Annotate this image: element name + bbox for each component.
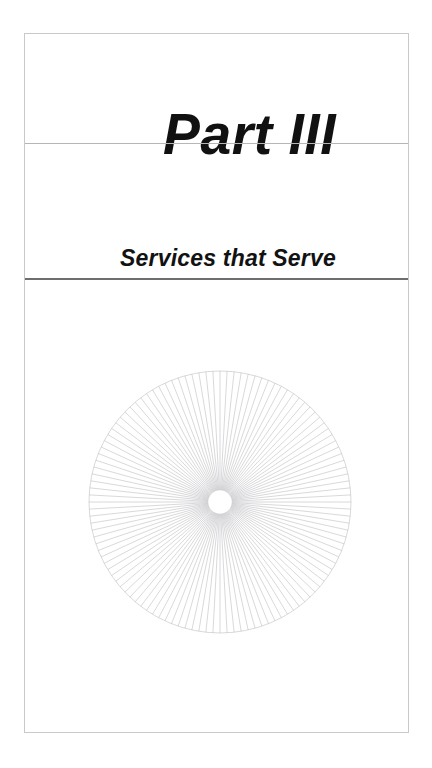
sunburst-icon <box>87 369 353 635</box>
title-divider-rule <box>25 143 408 144</box>
page-sheet: Part III Services that Serve <box>24 33 409 733</box>
page-subtitle: Services that Serve <box>25 247 336 270</box>
page-title: Part III <box>34 106 336 163</box>
subtitle-divider-rule <box>25 278 408 280</box>
radial-sunburst-ornament <box>87 369 353 635</box>
